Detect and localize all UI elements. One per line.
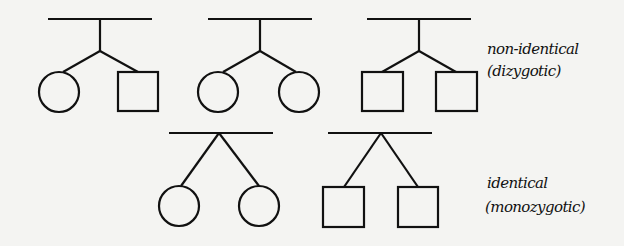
branch-left	[223, 51, 260, 72]
male-symbol	[436, 72, 477, 111]
pedigree-identical-male-male	[323, 133, 438, 227]
female-symbol	[39, 72, 79, 112]
female-symbol	[239, 186, 279, 226]
male-symbol	[398, 187, 438, 227]
male-symbol	[323, 187, 364, 227]
branch-right	[100, 51, 138, 72]
male-symbol	[362, 72, 403, 111]
branch-left	[63, 51, 100, 72]
pedigree-identical-female-female	[159, 133, 279, 226]
female-symbol	[198, 72, 238, 112]
pedigree-nonidentical-male-male	[362, 19, 477, 111]
branch-right	[381, 133, 418, 187]
label-identical: identical	[487, 176, 548, 191]
label-dizygotic: (dizygotic)	[487, 64, 561, 79]
branch-left	[382, 51, 419, 72]
pedigree-nonidentical-female-male	[39, 19, 158, 112]
pedigree-nonidentical-female-female	[198, 19, 319, 112]
label-non-identical: non-identical	[487, 42, 579, 57]
label-monozygotic: (monozygotic)	[485, 200, 585, 215]
female-symbol	[159, 186, 199, 226]
branch-left	[344, 133, 381, 187]
male-symbol	[118, 72, 158, 111]
branch-right	[260, 51, 296, 72]
branch-right	[219, 133, 259, 186]
branch-right	[419, 51, 456, 72]
branch-left	[181, 133, 219, 186]
female-symbol	[279, 72, 319, 112]
